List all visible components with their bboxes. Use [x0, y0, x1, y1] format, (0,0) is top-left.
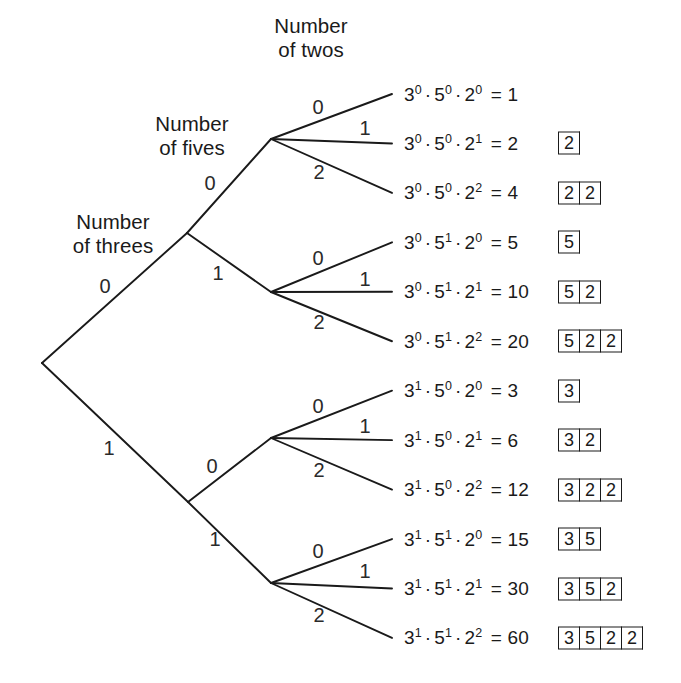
leaf-expression: 31·50·21 = 6	[404, 431, 518, 450]
leaf-product-value: 30	[508, 578, 530, 599]
edge-label-threes-1: 1	[103, 438, 114, 458]
factor-box-cell: 5	[559, 330, 580, 353]
factor-box-cell: 2	[601, 330, 622, 353]
leaf-expression-row: 31·51·20 = 15	[404, 526, 529, 552]
factor-exponent-5: 0	[445, 428, 452, 442]
multiply-dot-icon: ·	[452, 281, 465, 302]
factor-exponent-3: 1	[415, 527, 422, 541]
factor-exponent-5: 1	[445, 231, 452, 245]
leaf-expression: 31·50·22 = 12	[404, 480, 529, 499]
edge-label-twos-11: 2	[313, 605, 324, 625]
factor-exponent-5: 1	[445, 280, 452, 294]
factor-box-group: 352	[558, 577, 622, 600]
edge-label-twos-5: 2	[313, 312, 324, 332]
multiply-dot-icon: ·	[422, 627, 435, 648]
factor-base-2: 2	[465, 84, 476, 105]
factor-box-cell: 3	[559, 626, 580, 649]
multiply-dot-icon: ·	[422, 529, 435, 550]
leaf-expression-row: 30·50·22 = 4	[404, 180, 518, 206]
leaf-expression: 31·51·22 = 60	[404, 628, 529, 647]
equals-sign: =	[482, 529, 507, 550]
edge-label-fives-1: 1	[212, 263, 223, 283]
factor-box-group: 52	[558, 280, 601, 303]
leaf-product-value: 5	[508, 232, 519, 253]
factor-box-group: 32	[558, 429, 601, 452]
multiply-dot-icon: ·	[422, 578, 435, 599]
multiply-dot-icon: ·	[422, 232, 435, 253]
factor-base-5: 5	[434, 133, 445, 154]
multiply-dot-icon: ·	[452, 331, 465, 352]
edge-label-twos-2: 2	[313, 162, 324, 182]
multiply-dot-icon: ·	[422, 331, 435, 352]
factor-exponent-3: 0	[415, 181, 422, 195]
factor-base-5: 5	[434, 281, 445, 302]
factor-exponent-3: 1	[415, 626, 422, 640]
factor-box-group: 3	[558, 379, 580, 402]
factor-base-2: 2	[465, 182, 476, 203]
factor-box-cell: 5	[580, 577, 601, 600]
branch-twos-2-5	[271, 292, 392, 341]
factor-base-3: 3	[404, 84, 415, 105]
factor-exponent-5: 0	[445, 379, 452, 393]
edge-label-threes-0: 0	[99, 276, 110, 296]
factor-box-group: 322	[558, 478, 622, 501]
equals-sign: =	[482, 380, 507, 401]
factor-box-cell: 3	[559, 429, 580, 452]
factor-box-cell: 2	[601, 626, 622, 649]
factor-exponent-3: 1	[415, 379, 422, 393]
leaf-expression-row: 30·51·20 = 5	[404, 229, 518, 255]
factor-base-5: 5	[434, 479, 445, 500]
equals-sign: =	[482, 84, 507, 105]
factor-base-2: 2	[465, 529, 476, 550]
factor-base-2: 2	[465, 578, 476, 599]
factor-exponent-3: 0	[415, 132, 422, 146]
factor-base-5: 5	[434, 627, 445, 648]
branch-twos-0-6	[271, 391, 392, 438]
factor-box-cell: 2	[580, 181, 601, 204]
multiply-dot-icon: ·	[452, 182, 465, 203]
leaf-product-value: 4	[508, 182, 519, 203]
leaf-expression-row: 31·50·21 = 6	[404, 427, 518, 453]
factor-exponent-3: 0	[415, 82, 422, 96]
factor-tree-figure: Number of threesNumber of fivesNumber of…	[0, 0, 681, 683]
factor-exponent-3: 1	[415, 478, 422, 492]
factor-box-cell: 2	[580, 280, 601, 303]
leaf-product-value: 1	[508, 84, 519, 105]
equals-sign: =	[482, 430, 507, 451]
leaf-product-value: 60	[508, 627, 530, 648]
leaf-expression-row: 31·51·22 = 60	[404, 625, 529, 651]
leaf-expression: 30·51·21 = 10	[404, 282, 529, 301]
branch-fives-1-1	[187, 233, 271, 292]
equals-sign: =	[482, 627, 507, 648]
factor-base-5: 5	[434, 578, 445, 599]
factor-box-cell: 3	[559, 577, 580, 600]
factor-base-2: 2	[465, 133, 476, 154]
equals-sign: =	[482, 331, 507, 352]
factor-base-5: 5	[434, 182, 445, 203]
multiply-dot-icon: ·	[422, 380, 435, 401]
edge-label-twos-8: 2	[313, 460, 324, 480]
equals-sign: =	[482, 281, 507, 302]
factor-base-5: 5	[434, 84, 445, 105]
factor-base-2: 2	[465, 281, 476, 302]
factor-exponent-3: 1	[415, 577, 422, 591]
edge-label-twos-10: 1	[359, 561, 370, 581]
edge-label-twos-1: 1	[359, 118, 370, 138]
factor-box-cell: 5	[559, 231, 580, 254]
factor-base-3: 3	[404, 133, 415, 154]
equals-sign: =	[482, 479, 507, 500]
leaf-expression: 30·50·22 = 4	[404, 183, 518, 202]
edge-label-fives-2: 0	[206, 456, 217, 476]
factor-base-5: 5	[434, 430, 445, 451]
factor-base-3: 3	[404, 182, 415, 203]
header-label-1: Number of fives	[122, 112, 262, 160]
leaf-product-value: 3	[508, 380, 519, 401]
multiply-dot-icon: ·	[422, 84, 435, 105]
factor-base-3: 3	[404, 430, 415, 451]
factor-base-2: 2	[465, 627, 476, 648]
branch-fives-0-2	[188, 438, 271, 502]
leaf-product-value: 20	[508, 331, 530, 352]
factor-box-group: 22	[558, 181, 601, 204]
multiply-dot-icon: ·	[452, 529, 465, 550]
edge-label-twos-7: 1	[359, 416, 370, 436]
